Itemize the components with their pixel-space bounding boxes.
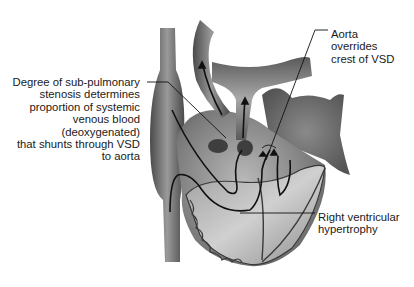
label-line: crest of VSD (331, 53, 394, 65)
label-line: to aorta (8, 150, 140, 162)
label-line: overrides (331, 40, 394, 52)
label-line: stenosis determines (8, 88, 140, 100)
label-line: that shunts through VSD (8, 138, 140, 150)
label-line: Aorta (331, 28, 394, 40)
label-sub-pulmonary-stenosis: Degree of sub-pulmonary stenosis determi… (8, 76, 140, 163)
label-line: Degree of sub-pulmonary (8, 76, 140, 88)
label-line: venous blood (8, 113, 140, 125)
label-aorta-overrides: Aorta overrides crest of VSD (331, 28, 394, 65)
label-right-ventricular-hypertrophy: Right ventricular hypertrophy (318, 211, 400, 236)
label-line: proportion of systemic (8, 101, 140, 113)
label-line: hypertrophy (318, 223, 400, 235)
label-line: Right ventricular (318, 211, 400, 223)
label-line: (deoxygenated) (8, 126, 140, 138)
